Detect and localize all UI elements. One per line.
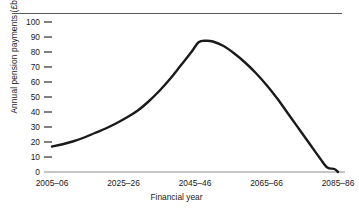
y-tick-label: 60 <box>6 77 40 87</box>
x-tick-label: 2085–86 <box>303 178 359 188</box>
x-axis-label: Financial year <box>0 192 353 202</box>
y-tick-label: 70 <box>6 62 40 72</box>
y-tick-label: 10 <box>6 152 40 162</box>
x-tick-label: 2005–06 <box>17 178 87 188</box>
x-tick-label: 2065–66 <box>232 178 302 188</box>
y-tick-label: 20 <box>6 137 40 147</box>
y-tick-label: 80 <box>6 47 40 57</box>
y-tick-label: 90 <box>6 32 40 42</box>
x-tick-label: 2045–46 <box>160 178 230 188</box>
y-tick-label: 30 <box>6 122 40 132</box>
y-tick-label: 40 <box>6 107 40 117</box>
y-tick-label: 0 <box>6 167 40 177</box>
pension-payments-line <box>52 41 338 172</box>
y-tick-label: 100 <box>6 17 40 27</box>
y-tick-label: 50 <box>6 92 40 102</box>
y-axis-ticks <box>44 22 52 172</box>
x-tick-label: 2025–26 <box>89 178 159 188</box>
